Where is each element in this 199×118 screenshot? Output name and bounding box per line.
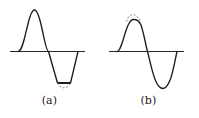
panel-b-plot	[99, 0, 198, 94]
panel-b: (b)	[99, 0, 198, 118]
panel-a: (a)	[0, 0, 99, 118]
panel-a-plot	[0, 0, 99, 94]
waveform-b-compressed	[117, 19, 177, 88]
waveform-a-clipped	[18, 10, 78, 83]
panel-a-caption: (a)	[0, 94, 99, 107]
panel-b-caption: (b)	[99, 94, 198, 107]
waveform-distortion-figure: (a) (b)	[0, 0, 199, 118]
